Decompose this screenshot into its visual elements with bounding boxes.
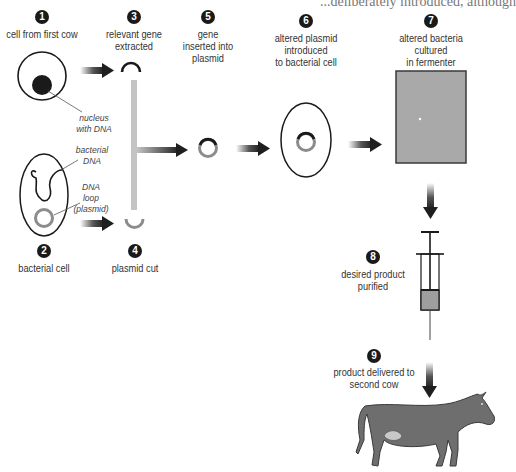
step-label-1: cell from first cow [5,28,79,40]
step-label-8: desired product purified [333,268,412,292]
step-badge-1: 1 [35,10,49,24]
step-label-7: altered bacteria cultured in fermenter [391,32,470,68]
step-badge-4: 4 [128,244,142,258]
arrow-icon [80,63,114,78]
step-badge-9: 9 [367,349,381,363]
bacterial-dna-annotation: bacterial DNA [74,144,110,166]
arrow-icon [80,216,114,231]
arrow-icon [236,141,270,156]
gene-bar [131,80,137,210]
step-badge-7: 7 [424,14,438,28]
arrow-icon [423,183,438,219]
fermenter-icon [396,71,466,163]
step-badge-6: 6 [299,14,313,28]
arrow-icon [176,143,188,157]
step-badge-3: 3 [127,10,141,24]
step-label-5: gene inserted into plasmid [173,28,243,64]
plasmid-icon [200,139,217,156]
nucleus-pointer [48,91,82,112]
plasmid-annotation: DNA loop (plasmid) [70,181,111,214]
cut-plasmid-icon [126,219,143,228]
step-badge-2: 2 [37,244,51,258]
step-badge-8: 8 [366,250,380,264]
step-label-4: plasmid cut [100,262,170,274]
bacterial-cell-icon [20,154,68,236]
nucleus-annotation: nucleus with DNA [74,112,114,134]
step-label-2: bacterial cell [9,262,79,274]
step-label-3: relevant gene extracted [99,28,169,52]
step-badge-5: 5 [201,10,215,24]
step-label-6: altered plasmid introduced to bacterial … [267,32,344,68]
gene-branch [137,147,179,153]
arrow-icon [422,362,437,398]
cow-icon [356,392,495,466]
altered-bacterial-cell-icon [281,103,331,177]
arrow-icon [348,137,382,152]
syringe-icon [416,232,444,340]
step-label-9: product delivered to second cow [330,366,418,390]
cow-cell-icon [18,52,66,100]
gene-fragment-icon [122,63,140,72]
